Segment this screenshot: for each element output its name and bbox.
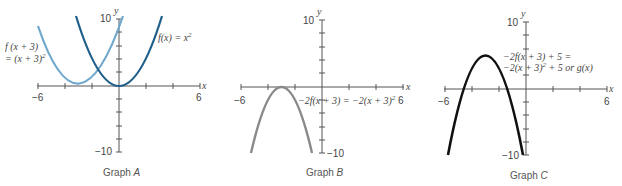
- figure-canvas: y x 10 −10 −6 6 f(x) = x2 f (x + 3) = (x…: [0, 0, 622, 186]
- x-tick-6: 6: [604, 96, 610, 107]
- y-tick-neg10: −10: [327, 148, 344, 159]
- graph-a: y x 10 −10 −6 6 f(x) = x2 f (x + 3) = (x…: [5, 5, 207, 178]
- x-tick-6: 6: [398, 95, 404, 106]
- graph-c-axes: [444, 22, 607, 155]
- x-axis-label: x: [405, 81, 411, 92]
- x-tick-neg6: −6: [32, 92, 44, 103]
- graph-b-axes: [241, 20, 404, 153]
- y-axis-label: y: [113, 5, 119, 16]
- y-tick-neg10: −10: [95, 146, 112, 157]
- y-tick-10: 10: [303, 15, 315, 26]
- x-tick-6: 6: [196, 92, 202, 103]
- label-f-x: f(x) = x2: [158, 31, 192, 44]
- graph-c: y x 10 −10 −6 6 −2f(x + 3) + 5 = −2(x + …: [438, 8, 614, 181]
- y-tick-10: 10: [100, 13, 112, 24]
- caption-graph-b: Graph B: [306, 167, 344, 178]
- label-g-line2: −2(x + 3)2 + 5 or g(x): [503, 61, 594, 74]
- y-axis-label: y: [316, 6, 322, 17]
- x-axis-label: x: [608, 83, 614, 94]
- graph-b: y x 10 −10 −6 6 −2f(x + 3) = −2(x + 3)2 …: [234, 6, 411, 178]
- x-tick-neg6: −6: [234, 95, 246, 106]
- x-axis-label: x: [201, 80, 207, 91]
- caption-graph-c: Graph C: [510, 170, 549, 181]
- label-f-x-plus-3-line2: = (x + 3)2: [5, 52, 46, 65]
- y-axis-label: y: [520, 8, 526, 19]
- y-tick-neg10: −10: [502, 150, 519, 161]
- label-neg2-f: −2f(x + 3) = −2(x + 3)2: [298, 94, 396, 107]
- caption-graph-a: Graph A: [103, 167, 141, 178]
- y-tick-10: 10: [507, 17, 519, 28]
- curve-f-x-plus-3: [38, 16, 123, 84]
- label-f-x-plus-3-line1: f (x + 3): [5, 41, 39, 53]
- x-tick-neg6: −6: [438, 96, 450, 107]
